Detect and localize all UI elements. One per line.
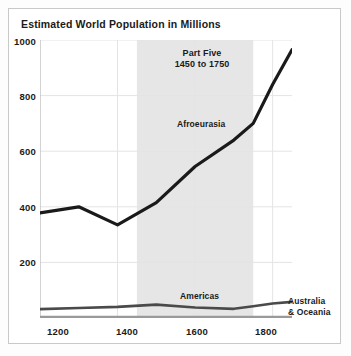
part-five-annotation: Part Five 1450 to 1750 <box>148 48 256 71</box>
y-tick-label-600: 600 <box>0 146 36 157</box>
y-tick-label-1000: 1000 <box>0 36 36 47</box>
chart-plot-svg <box>40 40 292 318</box>
x-tick-label-1200: 1200 <box>34 326 82 337</box>
x-tick-label-1400: 1400 <box>103 326 151 337</box>
part-five-line1: Part Five <box>148 48 256 59</box>
x-tick-label-1800: 1800 <box>242 326 290 337</box>
australia-oceania-series-label: Australia & Oceania <box>288 296 330 317</box>
australia-label-line2: & Oceania <box>288 307 330 318</box>
y-tick-label-200: 200 <box>0 257 36 268</box>
australia-label-line1: Australia <box>288 296 330 307</box>
y-tick-label-400: 400 <box>0 202 36 213</box>
y-tick-label-800: 800 <box>0 91 36 102</box>
afroeurasia-series-label: Afroeurasia <box>177 119 225 130</box>
part-five-line2: 1450 to 1750 <box>148 59 256 70</box>
chart-figure: Estimated World Population in Millions 1… <box>0 0 351 356</box>
x-tick-label-1600: 1600 <box>173 326 221 337</box>
plot-area <box>40 40 292 318</box>
americas-series-label: Americas <box>180 291 219 302</box>
chart-title: Estimated World Population in Millions <box>21 18 221 30</box>
